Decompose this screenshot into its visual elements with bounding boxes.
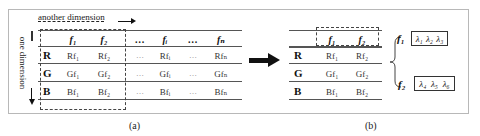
group-label-f1: f₁ [397, 33, 405, 44]
lambda-box-f2: λ₄ λ₅ λ₆ [414, 76, 455, 91]
transform-arrowhead-icon [268, 53, 280, 67]
lambda-1: λ₁ [416, 34, 423, 44]
table-b-cell: Bf₁ [317, 87, 347, 97]
table-a-header-fn: fₙ [206, 35, 236, 45]
caption-a: (a) [129, 121, 140, 131]
lambda-5: λ₅ [431, 79, 438, 89]
lambda-3: λ₃ [436, 34, 443, 44]
table-b-cell: Bf₂ [347, 87, 377, 97]
table-a-cell: … [178, 87, 208, 97]
selection-box-b [316, 27, 379, 46]
selection-box-a [40, 29, 126, 110]
side-axis-arrowhead-icon [29, 99, 35, 105]
table-b-row-label-g: G [294, 68, 303, 79]
top-axis-arrow-icon [118, 21, 132, 22]
table-b-line-row1 [289, 63, 382, 64]
table-b-line-header [289, 46, 382, 48]
table-a-cell: … [178, 51, 208, 61]
top-axis-arrowhead-icon [131, 18, 136, 24]
table-a-cell: Bfₙ [206, 87, 236, 97]
top-axis-label: another dimension [38, 12, 105, 22]
table-a-cell: Gfₙ [206, 69, 236, 79]
table-b-line-row2 [289, 81, 382, 82]
table-b-row-label-r: R [294, 50, 302, 61]
lambda-4: λ₄ [419, 79, 426, 89]
lambda-2: λ₂ [426, 34, 433, 44]
table-b-cell: Gf₁ [317, 69, 347, 79]
table-b-line-bottom [289, 99, 382, 100]
lambda-box-f1: λ₁ λ₂ λ₃ [411, 31, 448, 46]
table-a-cell: Rfᵢ [150, 51, 180, 61]
table-a-cell: Gfᵢ [150, 69, 180, 79]
group-label-f2: f₂ [398, 79, 406, 90]
table-a-cell: … [178, 69, 208, 79]
caption-b: (b) [365, 121, 377, 131]
table-b-cell: Rf₂ [347, 51, 377, 61]
side-axis-label: one dimension [18, 28, 28, 98]
table-a-header-fi: fᵢ [150, 35, 180, 45]
side-axis-bar [31, 31, 33, 41]
table-a-header-ellipsis-2: … [178, 35, 208, 45]
table-b-cell: Gf₂ [347, 69, 377, 79]
table-b-row-label-b: B [294, 86, 301, 97]
table-a-cell: Rfₙ [206, 51, 236, 61]
transform-arrow-icon [249, 58, 269, 63]
table-a-cell: Bfᵢ [150, 87, 180, 97]
table-b-cell: Rf₁ [317, 51, 347, 61]
lambda-6: λ₆ [443, 79, 450, 89]
